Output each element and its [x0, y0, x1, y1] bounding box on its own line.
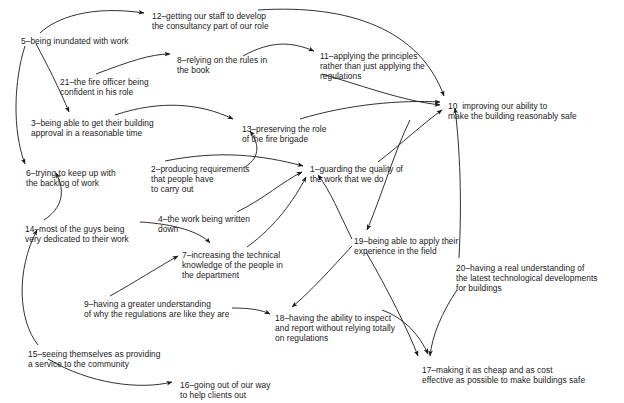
concept-node-10[interactable]: 10 improving our ability to make the bui… [448, 101, 577, 121]
concept-node-11[interactable]: 11–applying the principles rather than j… [320, 51, 425, 82]
concept-node-9[interactable]: 9–having a greater understanding of why … [84, 299, 229, 319]
concept-node-1[interactable]: 1–guarding the quality of the work that … [310, 164, 403, 184]
concept-node-17[interactable]: 17–making it as cheap and as cost effect… [422, 365, 585, 385]
edge-19-to-1 [318, 175, 352, 239]
concept-node-4[interactable]: 4–the work being written down [158, 214, 250, 234]
concept-node-8[interactable]: 8–relying on the rules in the book [177, 55, 267, 75]
concept-node-7[interactable]: 7–increasing the technical knowledge of … [182, 250, 283, 281]
edge-7-to-1 [247, 177, 306, 247]
concept-node-16[interactable]: 16–going out of our way to help clients … [180, 380, 271, 400]
edge-21-to-8 [96, 54, 170, 74]
concept-node-12[interactable]: 12–getting our staff to develop the cons… [152, 11, 269, 31]
edge-20-to-17 [430, 290, 457, 356]
concept-node-20[interactable]: 20–having a real understanding of the la… [456, 263, 598, 294]
concept-node-5[interactable]: 5–being inundated with work [21, 36, 129, 46]
concept-node-21[interactable]: 21–the fire officer being confident in h… [60, 77, 149, 97]
concept-node-2[interactable]: 2–producing requirements that people hav… [151, 164, 250, 195]
concept-node-14[interactable]: 14–most of the guys being very dedicated… [25, 224, 129, 244]
concept-node-6[interactable]: 6–trying to keep up with the backlog of … [26, 168, 116, 188]
concept-node-13[interactable]: 13–preserving the role of the fire briga… [242, 124, 326, 144]
edge-9-to-7 [110, 256, 178, 296]
cognitive-map-diagram: 1–guarding the quality of the work that … [0, 0, 624, 403]
edge-19-to-18 [292, 246, 352, 307]
concept-node-3[interactable]: 3–being able to get their building appro… [31, 118, 154, 138]
edge-5-to-12 [40, 11, 144, 33]
edge-9-to-18 [232, 308, 270, 314]
edge-1-to-10 [378, 110, 442, 162]
edge-3-to-13 [115, 105, 233, 119]
concept-node-18[interactable]: 18–having the ability to inspect and rep… [275, 313, 395, 344]
concept-node-19[interactable]: 19–being able to apply their experience … [354, 236, 458, 256]
edge-13-to-10 [300, 102, 440, 119]
edge-15-to-14 [22, 230, 38, 345]
concept-node-15[interactable]: 15–seeing themselves as providing a serv… [28, 349, 160, 369]
edge-5-to-6 [16, 46, 25, 164]
